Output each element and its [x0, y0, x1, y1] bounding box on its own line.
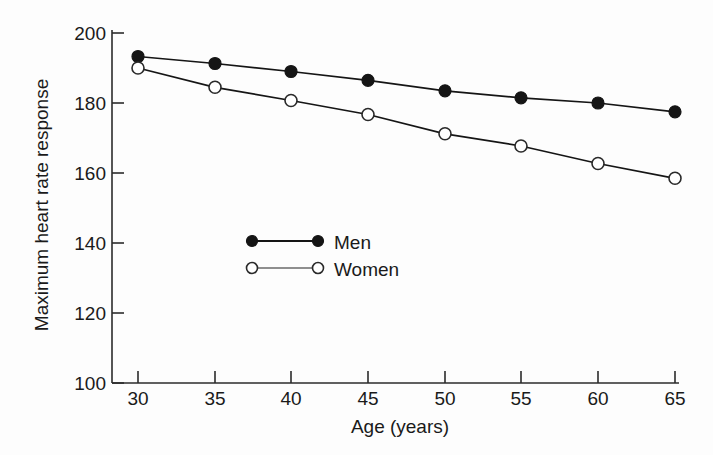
legend-label-men: Men — [334, 232, 371, 253]
series-men-point — [132, 51, 144, 63]
x-axis-title: Age (years) — [351, 416, 449, 437]
x-axis-ticks — [138, 371, 675, 383]
series-women — [132, 62, 681, 184]
series-men-point — [669, 106, 681, 118]
heart-rate-vs-age-line-chart: 200 180 160 140 120 100 30 35 40 45 50 5… — [0, 0, 713, 455]
y-tick-label-140: 140 — [74, 233, 106, 254]
x-tick-label-60: 60 — [587, 388, 608, 409]
series-women-point — [515, 140, 527, 152]
series-women-point — [362, 109, 374, 121]
chart-legend: Men Women — [247, 232, 400, 280]
series-women-point — [132, 62, 144, 74]
legend-swatch-men-marker-end — [313, 236, 324, 247]
x-tick-label-30: 30 — [127, 388, 148, 409]
x-tick-label-55: 55 — [510, 388, 531, 409]
x-tick-label-50: 50 — [434, 388, 455, 409]
legend-label-women: Women — [334, 259, 399, 280]
x-tick-label-45: 45 — [357, 388, 378, 409]
series-men-point — [439, 85, 451, 97]
y-tick-label-200: 200 — [74, 23, 106, 44]
y-tick-label-160: 160 — [74, 163, 106, 184]
y-tick-label-100: 100 — [74, 373, 106, 394]
x-tick-label-35: 35 — [204, 388, 225, 409]
y-tick-label-180: 180 — [74, 93, 106, 114]
legend-swatch-women-marker-end — [313, 263, 324, 274]
series-women-point — [439, 128, 451, 140]
x-tick-label-40: 40 — [280, 388, 301, 409]
chart-container: 200 180 160 140 120 100 30 35 40 45 50 5… — [0, 0, 713, 455]
legend-swatch-women-marker-start — [247, 263, 258, 274]
legend-entry-men: Men — [247, 232, 371, 253]
y-axis-title: Maximum heart rate response — [31, 79, 52, 331]
series-men-point — [592, 97, 604, 109]
y-axis-tick-labels: 200 180 160 140 120 100 — [74, 23, 106, 394]
legend-entry-women: Women — [247, 259, 400, 280]
y-tick-label-120: 120 — [74, 303, 106, 324]
y-axis-ticks — [112, 33, 124, 383]
series-men-point — [362, 74, 374, 86]
series-men-point — [285, 66, 297, 78]
series-women-point — [285, 95, 297, 107]
series-women-point — [209, 81, 221, 93]
x-tick-label-65: 65 — [664, 388, 685, 409]
x-axis-tick-labels: 30 35 40 45 50 55 60 65 — [127, 388, 685, 409]
legend-swatch-men-marker-start — [247, 236, 258, 247]
series-men-point — [515, 92, 527, 104]
series-women-point — [592, 158, 604, 170]
series-women-point — [669, 172, 681, 184]
series-men-point — [209, 58, 221, 70]
